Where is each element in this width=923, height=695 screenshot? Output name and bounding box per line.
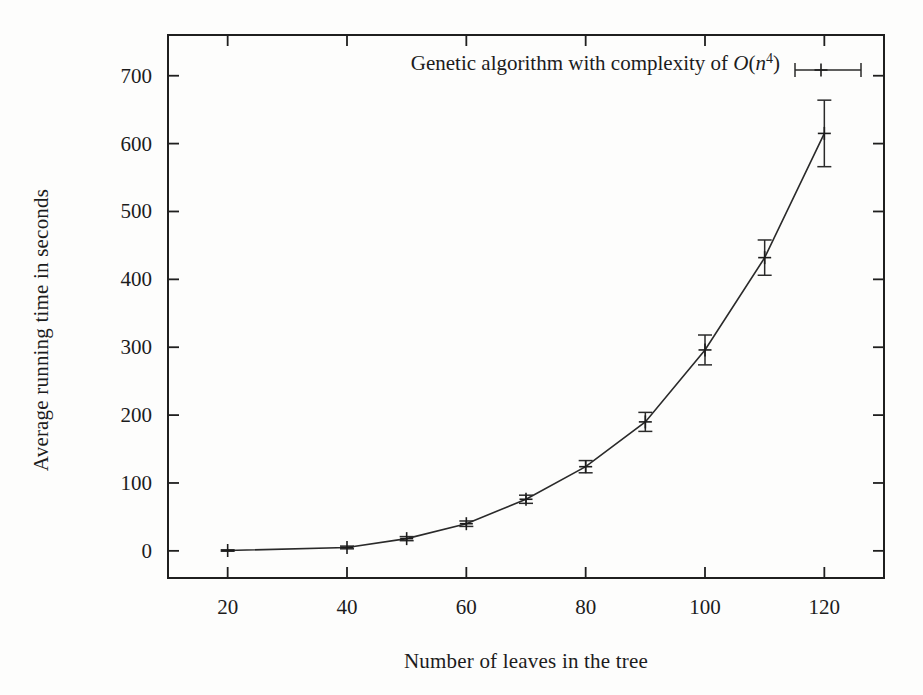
y-tick-label: 300 <box>121 335 153 359</box>
y-axis-title: Average running time in seconds <box>29 189 53 471</box>
x-axis-title: Number of leaves in the tree <box>404 649 648 673</box>
data-point <box>221 544 235 557</box>
data-point <box>758 240 772 275</box>
x-tick-label: 40 <box>337 595 358 619</box>
data-point <box>340 541 354 554</box>
data-point <box>519 493 533 506</box>
chart-legend: Genetic algorithm with complexity of O(n… <box>411 51 861 78</box>
x-tick-label: 120 <box>809 595 841 619</box>
legend-entry-label: Genetic algorithm with complexity of O(n… <box>411 51 780 76</box>
y-tick-label: 600 <box>121 132 153 156</box>
legend-sample-marker <box>795 63 861 77</box>
data-series-layer <box>221 100 832 557</box>
chart-figure: 20406080100120 0100200300400500600700 Ge… <box>0 0 923 695</box>
y-tick-label: 100 <box>121 471 153 495</box>
y-tick-label: 200 <box>121 403 153 427</box>
x-tick-label: 100 <box>689 595 721 619</box>
data-point <box>400 532 414 545</box>
y-tick-label: 500 <box>121 199 153 223</box>
y-tick-label: 0 <box>142 539 153 563</box>
x-tick-label: 80 <box>575 595 596 619</box>
series-line <box>228 133 825 550</box>
y-tick-label: 700 <box>121 64 153 88</box>
y-tick-label: 400 <box>121 267 153 291</box>
x-tick-label: 60 <box>456 595 477 619</box>
y-axis-ticks: 0100200300400500600700 <box>121 64 885 563</box>
chart-canvas: 20406080100120 0100200300400500600700 Ge… <box>0 0 923 695</box>
x-axis-ticks: 20406080100120 <box>217 35 840 619</box>
data-point <box>698 335 712 365</box>
x-tick-label: 20 <box>217 595 238 619</box>
data-point <box>459 517 473 530</box>
data-point <box>817 100 831 167</box>
